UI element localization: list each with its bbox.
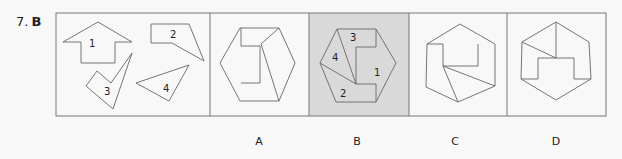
option-a-figure[interactable] <box>220 28 295 101</box>
cut-line <box>443 66 495 86</box>
option-b-piece-label: 2 <box>340 88 346 99</box>
option-d-figure[interactable] <box>521 22 591 100</box>
option-b-piece-label: 3 <box>350 32 356 43</box>
option-b-highlight <box>309 13 409 116</box>
piece-1-label: 1 <box>89 38 95 49</box>
notch-line <box>427 44 478 66</box>
piece-1 <box>63 22 132 63</box>
option-b-label[interactable]: B <box>353 135 361 148</box>
piece-3-label: 3 <box>104 86 110 97</box>
option-c-figure[interactable] <box>426 24 495 102</box>
piece-4-label: 4 <box>163 83 169 94</box>
piece-2 <box>151 24 204 61</box>
option-c-label[interactable]: C <box>451 135 459 148</box>
puzzle-figure: 1 2 3 4 3 4 1 2 <box>0 0 622 159</box>
notch-line <box>521 58 591 79</box>
hexagon-outline <box>426 24 495 102</box>
option-d-label[interactable]: D <box>552 135 560 148</box>
cut-line <box>443 66 458 102</box>
piece-2-label: 2 <box>170 29 176 40</box>
pieces-panel: 1 2 3 4 <box>63 22 204 109</box>
piece-3 <box>86 53 132 109</box>
hexagon-outline <box>220 28 295 101</box>
notch-line <box>241 28 260 83</box>
option-a-label[interactable]: A <box>255 135 263 148</box>
cut-line <box>261 28 279 101</box>
option-b-piece-label: 1 <box>374 67 380 78</box>
cut-line <box>522 42 556 58</box>
option-b-piece-label: 4 <box>332 52 338 63</box>
